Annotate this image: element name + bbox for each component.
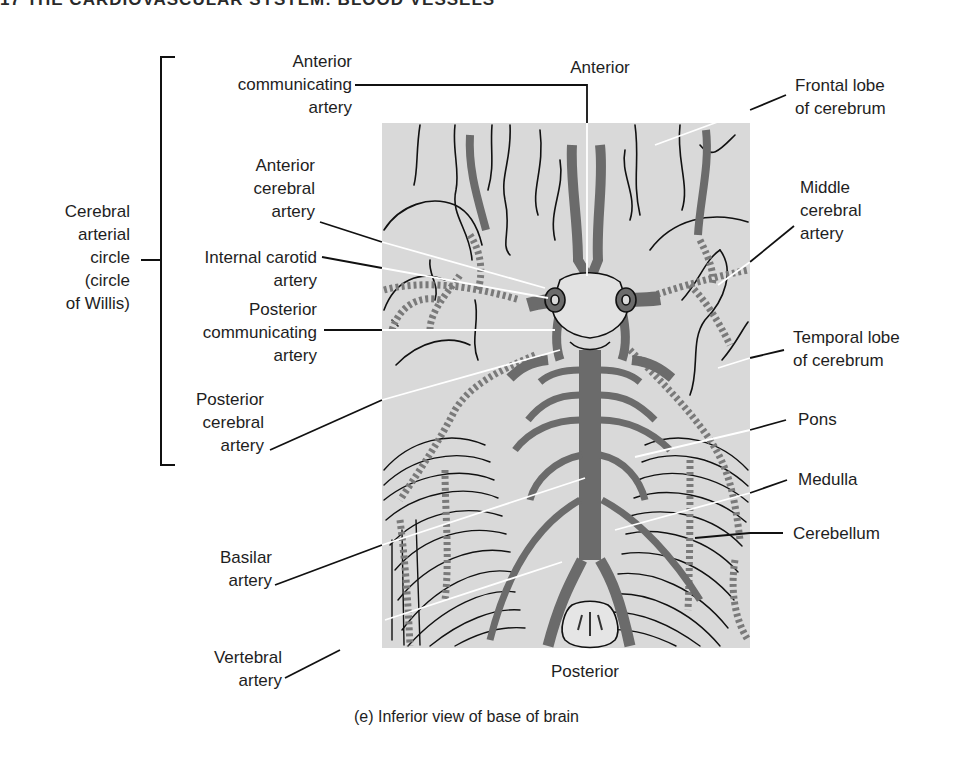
anterior-text: Anterior	[545, 56, 655, 79]
label-line: Frontal lobe	[795, 74, 955, 97]
label-line: artery	[800, 222, 950, 245]
label-anterior-cerebral-artery: Anterior cerebral artery	[180, 154, 315, 223]
bracket-label-line: circle	[20, 246, 130, 269]
label-internal-carotid-artery: Internal carotid artery	[160, 246, 317, 292]
label-line: communicating	[160, 321, 317, 344]
posterior-text: Posterior	[520, 660, 650, 683]
label-vertebral-artery: Vertebral artery	[160, 646, 282, 692]
label-basilar-artery: Basilar artery	[160, 546, 272, 592]
figure-caption: (e) Inferior view of base of brain	[354, 708, 579, 726]
label-line: artery	[160, 344, 317, 367]
label-cerebellum: Cerebellum	[793, 522, 933, 545]
label-line: artery	[160, 569, 272, 592]
label-line: Cerebellum	[793, 522, 933, 545]
label-line: artery	[180, 96, 352, 119]
label-line: Anterior	[180, 50, 352, 73]
label-posterior-communicating-artery: Posterior communicating artery	[160, 298, 317, 367]
label-frontal-lobe: Frontal lobe of cerebrum	[795, 74, 955, 120]
label-line: Middle	[800, 176, 950, 199]
label-line: cerebral	[800, 199, 950, 222]
spinal-cord-section	[562, 601, 618, 647]
label-line: cerebral	[160, 411, 264, 434]
label-line: Medulla	[798, 468, 918, 491]
bracket-label-line: (circle	[20, 269, 130, 292]
bracket-label-line: Cerebral	[20, 200, 130, 223]
label-line: communicating	[180, 73, 352, 96]
posterior-label: Posterior	[520, 660, 650, 683]
label-posterior-cerebral-artery: Posterior cerebral artery	[160, 388, 264, 457]
label-medulla: Medulla	[798, 468, 918, 491]
bracket-label-line: arterial	[20, 223, 130, 246]
label-line: artery	[180, 200, 315, 223]
circle-of-willis-label: Cerebral arterial circle (circle of Will…	[20, 200, 130, 315]
label-line: Basilar	[160, 546, 272, 569]
label-temporal-lobe: Temporal lobe of cerebrum	[793, 326, 963, 372]
label-line: of cerebrum	[793, 349, 963, 372]
label-anterior-communicating-artery: Anterior communicating artery	[180, 50, 352, 119]
label-line: artery	[160, 434, 264, 457]
label-line: Posterior	[160, 298, 317, 321]
label-line: Pons	[798, 408, 918, 431]
anterior-label: Anterior	[545, 56, 655, 79]
label-line: artery	[160, 669, 282, 692]
bracket-label-line: of Willis)	[20, 292, 130, 315]
label-line: of cerebrum	[795, 97, 955, 120]
label-line: artery	[160, 269, 317, 292]
label-pons: Pons	[798, 408, 918, 431]
label-line: cerebral	[180, 177, 315, 200]
label-line: Temporal lobe	[793, 326, 963, 349]
label-line: Internal carotid	[160, 246, 317, 269]
label-middle-cerebral-artery: Middle cerebral artery	[800, 176, 950, 245]
label-line: Posterior	[160, 388, 264, 411]
label-line: Vertebral	[160, 646, 282, 669]
label-line: Anterior	[180, 154, 315, 177]
